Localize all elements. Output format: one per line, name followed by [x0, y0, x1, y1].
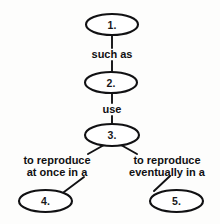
connector-right-label-to-node5 [154, 176, 170, 191]
node-3-label: 3. [108, 129, 117, 141]
node-4-label: 4. [41, 195, 50, 207]
link-label-use: use [103, 103, 122, 115]
connector-left-label-to-node4 [64, 177, 84, 192]
link-label-reproduce-eventually-line2: eventually in a [129, 166, 206, 178]
node-5-label: 5. [172, 195, 181, 207]
link-label-such-as: such as [92, 48, 133, 60]
node-5[interactable]: 5. [150, 190, 203, 212]
node-3[interactable]: 3. [85, 124, 139, 146]
diagram-canvas: 1. 2. 3. 4. 5. such as use to repr [0, 0, 220, 224]
node-1-label: 1. [108, 19, 117, 31]
node-2-label: 2. [107, 77, 116, 89]
node-4[interactable]: 4. [19, 190, 72, 212]
connector-node3-to-right-label [121, 145, 137, 154]
link-label-reproduce-at-once-line2: at once in a [27, 166, 88, 178]
connector-node3-to-left-label [88, 145, 104, 154]
link-label-reproduce-eventually-line1: to reproduce [133, 154, 200, 166]
link-label-group: such as use to reproduce at once in a to… [23, 48, 205, 178]
node-1[interactable]: 1. [86, 14, 138, 35]
concept-map-diagram: 1. 2. 3. 4. 5. such as use to repr [0, 0, 220, 224]
link-label-reproduce-at-once-line1: to reproduce [23, 154, 90, 166]
node-2[interactable]: 2. [85, 72, 137, 93]
